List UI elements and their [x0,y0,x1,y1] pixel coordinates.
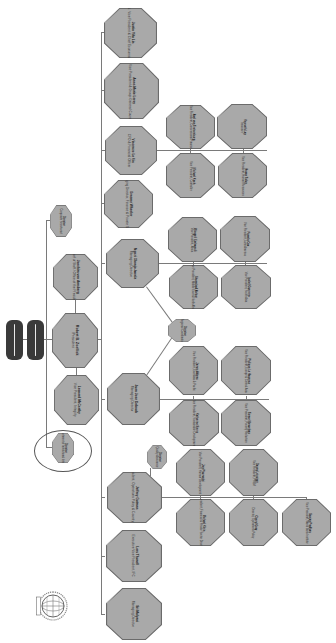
connector-line [101,556,105,557]
node-regional-vp[interactable]: Philippe Le HouerouVice President, Europ… [221,346,271,395]
node-general-counsel[interactable]: Anne-Marie LeroySr. Vice President & Gro… [104,63,159,119]
node-title: Vice President, Financial & Private Sect… [198,491,201,555]
node-ifc[interactable]: Lars ThunellExecutive Vice President, IF… [106,530,162,582]
node-name: Juan Jose Daboub [134,385,138,413]
node-title: Managing Director [130,601,134,627]
connector-line [101,263,105,264]
globe-icon [33,585,73,627]
node-regional-vp[interactable]: Isabel GuerreroVice President, South Asi… [221,265,271,309]
node-title: Treasurer [239,119,242,135]
node-finance-report[interactable]: Michael KochVice President, Controller [166,153,215,198]
node-title: Executive Vice President, IFC [130,535,134,577]
node-shared-coordination[interactable]: DirectorRegional Coordination [168,319,196,342]
node-md-ngozi[interactable]: Ngozi Okonjo-IwealaManaging Director [106,239,159,288]
node-finance-report[interactable]: Hasan TuluyVice President, Human Resourc… [218,153,267,198]
connector-line [101,399,105,400]
node-md-finance[interactable]: Graeme WheelerManaging Director, Finance… [104,180,153,228]
node-quality-assurance[interactable]: DirectorQuality Assurance [147,445,167,469]
connector-line [101,497,105,498]
node-title: Vice President, Concessional Finance [188,105,191,149]
node-title: Vice President, World Bank Institute [304,502,307,543]
node-title: Vice President, Controller [188,161,191,190]
node-title: Vice President, Europe & Central Asia [243,349,246,393]
node-cfo[interactable]: Vincenzo La ViaCFO & Financial Officer [105,126,157,175]
node-title: Regional Coordination [179,318,182,344]
node-title: Sr. Vice President & Chief Economist [127,7,131,59]
node-title: Chief of Staff / Office of the President [72,251,76,304]
node-network-vp[interactable]: Tamar ManuelyanVice President, Poverty R… [221,400,271,446]
connector-line [101,32,102,614]
node-regional-vp[interactable]: Shamshad AkhtarVice President, Middle Ea… [169,265,218,309]
node-name: Joachim von Amsberg [76,251,80,304]
node-title: Vice President, Integrity [73,383,77,417]
board-of-executive-directors[interactable] [27,320,44,360]
node-name: Robert B. Zoellick [75,325,79,356]
world-bank-logo [33,585,73,627]
connector-line [101,150,105,151]
node-name: Vincenzo La Via [131,134,135,168]
connector-line [46,220,47,448]
node-title: Vice President, Human Development [198,451,201,493]
connector-line [157,263,267,264]
node-md-daboub[interactable]: Juan Jose DaboubManaging Director [107,373,160,425]
node-title: Vice President, PREM [251,460,254,486]
node-title: Department of Institutional Integrity [60,428,63,468]
org-chart-canvas: DirectorCorporate Secretariat Joachim vo… [0,0,336,643]
node-title: Managing Director [130,385,134,413]
node-title: Director, Operations Policy [251,507,254,538]
node-president[interactable]: Robert B. ZoellickPresident [52,313,98,368]
node-integrity[interactable]: Leonard McCarthyVice President, Integrit… [54,375,99,425]
node-regional-vp[interactable]: Pamela CoxVice President, Latin America [220,216,270,262]
connector-line [75,300,76,313]
node-regional-vp[interactable]: James AdamsVice President, East Asia & P… [169,346,218,395]
node-title: Vice President, Middle East & North Afri… [191,263,194,311]
node-finance-report[interactable]: Axel van TrotsenburgVice President, Conc… [166,105,215,149]
node-title: Vice President, Human Resources [240,156,243,196]
node-finance-report[interactable]: Kenneth LayTreasurer [217,104,267,149]
node-regional-vp[interactable]: Obiageli EzekwesiliVice President, Afric… [168,217,217,262]
node-title: Vice President, Sustainable Development [191,399,194,447]
connector-line [157,150,267,151]
node-md-mulyani[interactable]: Sri MulyaniManaging Director [106,588,162,640]
node-title: Vice President, Operations Policy & Coun… [131,460,135,535]
connector-line [157,399,269,400]
node-title: Corporate Secretariat [58,209,61,234]
node-corporate-secretariat[interactable]: DirectorCorporate Secretariat [50,205,72,237]
node-title: CFO & Financial Officer [127,134,131,168]
board-label-bar [14,324,16,356]
node-operations-policy[interactable]: Jeffrey GutmanVice President, Operations… [107,472,162,523]
node-title: Managing Director [129,248,133,279]
node-title: Sr. Vice President & Group General Couns… [128,60,132,123]
node-title: Vice President, Africa [190,227,193,252]
node-network-vp[interactable]: Katherine SierraVice President, Sustaina… [169,400,219,446]
node-network-vp[interactable]: Danny LeipzigerVice President, PREM [229,449,278,496]
node-chief-of-staff[interactable]: Joachim von AmsbergChief of Staff / Offi… [53,254,98,300]
node-network-vp[interactable]: Joy PhumaphiVice President, Human Develo… [176,449,225,496]
connector-line [76,368,77,375]
connector-line [46,220,50,221]
board-label-bar [35,324,37,356]
node-title: Vice President, East Asia & Pacific [191,351,194,391]
node-chief-economist[interactable]: Justin Yifu LinSr. Vice President & Chie… [104,8,157,58]
node-title: Vice President, Latin America [242,222,245,256]
node-network-vp[interactable]: Sanjay PradhanVice President, World Bank… [282,499,331,546]
connector-line [101,614,105,615]
node-title: Vice President, South Asia [243,272,246,303]
node-title: President [71,325,75,356]
node-title: Quality Assurance [154,447,157,468]
node-network-vp[interactable]: Michael KleinVice President, Financial &… [176,499,225,546]
node-highlighted[interactable]: DirectorDepartment of Institutional Inte… [52,433,74,463]
node-network-vp[interactable]: Cheryl GrayDirector, Operations Policy [229,499,278,546]
board-of-governors[interactable] [6,320,23,360]
node-title: Managing Director, Finance & Private Sec… [125,173,129,236]
node-name: Justin Yifu Lin [130,7,134,59]
connector-line [157,497,307,498]
connector-line [150,468,151,476]
node-title: Vice President, Poverty Reduction [243,403,246,442]
